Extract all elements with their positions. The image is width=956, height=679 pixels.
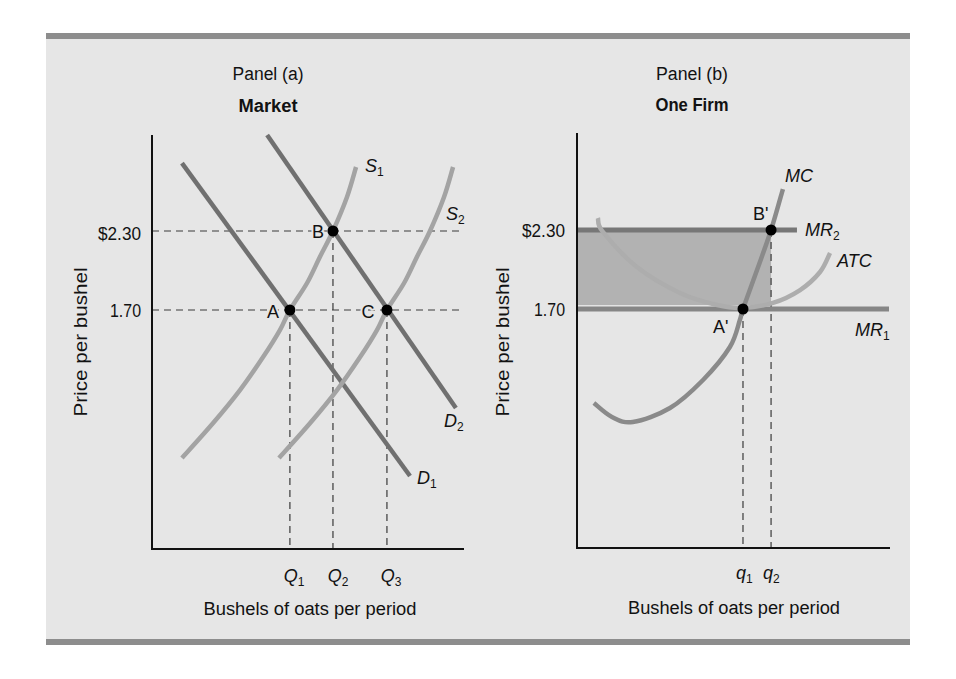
point-label-a-prime: A' <box>713 317 728 337</box>
panel-a-title: Market <box>239 96 298 116</box>
bottom-rule <box>46 639 910 645</box>
curve-label-mc: MC <box>785 166 814 186</box>
point-label-b: B <box>312 222 324 242</box>
profit-area <box>577 230 771 305</box>
panel-b-title: One Firm <box>656 95 729 115</box>
y-axis-title: Price per bushel <box>493 268 513 417</box>
y-tick-label: $2.30 <box>522 221 565 241</box>
top-rule <box>46 33 910 39</box>
equilibrium-point <box>766 224 777 235</box>
y-axis-title: Price per bushel <box>71 268 91 417</box>
equilibrium-point <box>737 304 748 315</box>
equilibrium-point <box>381 305 392 316</box>
equilibrium-point <box>327 225 338 236</box>
figure: Panel (a) Market Price per bushel Bushel… <box>0 0 956 679</box>
y-tick-label: 1.70 <box>534 300 565 320</box>
point-label-a: A <box>267 302 279 322</box>
point-label-b-prime: B' <box>753 204 768 224</box>
panel-b-label: Panel (b) <box>656 64 728 84</box>
figure-background <box>46 36 910 642</box>
x-axis-title: Bushels of oats per period <box>628 598 840 618</box>
panel-a-label: Panel (a) <box>233 64 304 84</box>
equilibrium-point <box>284 305 295 316</box>
y-tick-label: $2.30 <box>98 224 141 244</box>
curve-label-atc: ATC <box>836 251 873 271</box>
x-axis-title: Bushels of oats per period <box>204 599 417 619</box>
point-label-c: C <box>362 302 375 322</box>
y-tick-label: 1.70 <box>110 301 141 321</box>
